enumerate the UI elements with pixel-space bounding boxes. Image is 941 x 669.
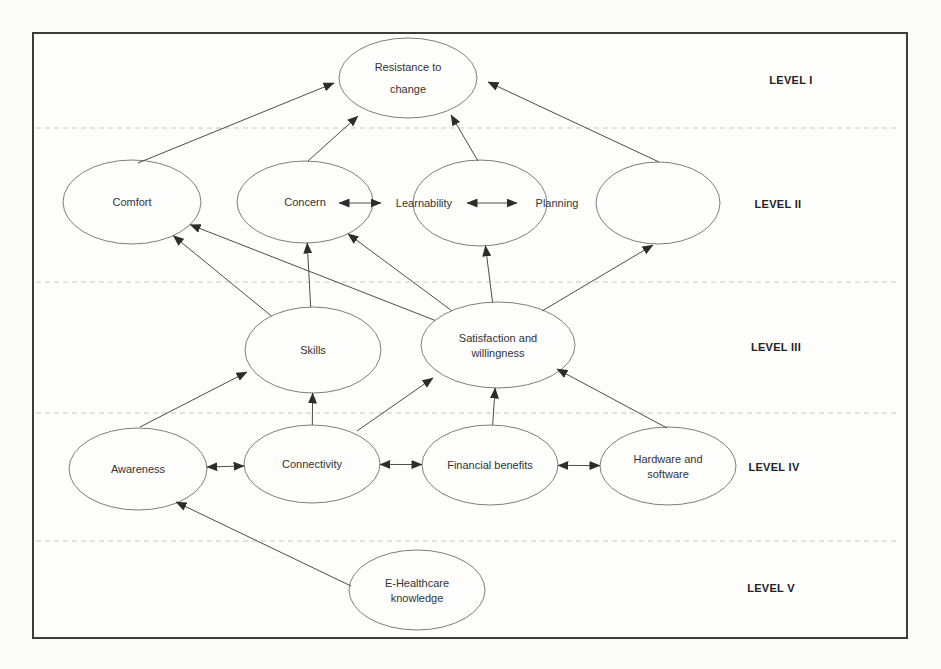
node-label-concern: Concern	[284, 196, 326, 208]
node-ellipse-resistance	[339, 38, 477, 118]
node-ellipse-hardware	[600, 427, 736, 505]
level-label-1: LEVEL I	[769, 74, 812, 86]
level-label-4: LEVEL IV	[748, 461, 799, 473]
level-label-5: LEVEL V	[747, 582, 795, 594]
node-label-connectivity: Connectivity	[282, 458, 342, 470]
node-label-skills: Skills	[300, 344, 326, 356]
node-label-awareness: Awareness	[111, 463, 166, 475]
node-label-learnability: Learnability	[396, 197, 453, 209]
node-label-financial: Financial benefits	[447, 459, 533, 471]
node-ellipse-satisfaction	[421, 302, 575, 388]
ism-diagram-page: Resistance tochangeComfortConcernLearnab…	[0, 0, 941, 669]
node-ellipse-ehealth	[349, 550, 485, 630]
node-label-planning: Planning	[536, 197, 579, 209]
node-ellipse-unlabeled	[596, 162, 720, 244]
node-label-comfort: Comfort	[112, 196, 151, 208]
level-label-3: LEVEL III	[751, 341, 801, 353]
level-label-2: LEVEL II	[755, 198, 802, 210]
ism-diagram: Resistance tochangeComfortConcernLearnab…	[0, 0, 941, 669]
